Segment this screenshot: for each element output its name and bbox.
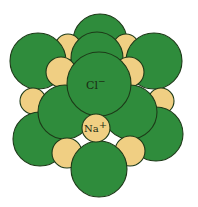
atoms-group (10, 14, 183, 197)
nacl-lattice-diagram: Cl− Na+ (0, 0, 198, 207)
chloride-ion-cl-bottom-front (71, 141, 127, 197)
